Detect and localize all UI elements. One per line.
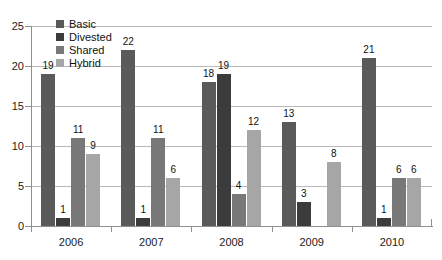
y-axis-tick-label: 20 <box>2 61 24 72</box>
y-axis-labels: 0510152025 <box>0 0 24 260</box>
bar <box>41 74 55 226</box>
bar <box>247 130 261 226</box>
x-axis-tick <box>272 226 273 232</box>
y-axis-tick <box>25 66 31 67</box>
bar-value-label: 21 <box>363 45 374 55</box>
bar <box>71 138 85 226</box>
x-axis-tick <box>111 226 112 232</box>
y-axis-tick-label: 5 <box>2 181 24 192</box>
bar <box>232 194 246 226</box>
bar-value-label: 18 <box>203 69 214 79</box>
bar <box>136 218 150 226</box>
legend-item: Shared <box>56 44 112 56</box>
bar-value-label: 6 <box>171 165 177 175</box>
legend-item: Basic <box>56 18 112 30</box>
legend-swatch-icon <box>56 59 64 67</box>
bar-value-label: 22 <box>123 37 134 47</box>
legend-item-label: Basic <box>69 19 96 30</box>
x-axis-tick-label: 2008 <box>219 236 243 248</box>
legend-item: Hybrid <box>56 57 112 69</box>
x-axis-line <box>31 226 433 227</box>
legend-swatch-icon <box>56 46 64 54</box>
chart-legend: BasicDivestedSharedHybrid <box>56 18 112 69</box>
bar-value-label: 13 <box>283 109 294 119</box>
y-axis-tick-label: 0 <box>2 221 24 232</box>
y-axis-tick-label: 25 <box>2 21 24 32</box>
y-axis-tick <box>25 26 31 27</box>
bar <box>392 178 406 226</box>
bar <box>151 138 165 226</box>
bar <box>377 218 391 226</box>
x-axis-tick-label: 2006 <box>59 236 83 248</box>
bar <box>297 202 311 226</box>
x-axis-tick-label: 2009 <box>299 236 323 248</box>
bar-value-label: 1 <box>141 205 147 215</box>
bar-value-label: 6 <box>411 165 417 175</box>
y-axis-tick <box>25 106 31 107</box>
bar-value-label: 9 <box>90 141 96 151</box>
y-axis-tick-label: 15 <box>2 101 24 112</box>
y-axis-tick-label: 10 <box>2 141 24 152</box>
bar-value-label: 8 <box>331 149 337 159</box>
legend-item-label: Shared <box>69 45 104 56</box>
y-axis-tick <box>25 226 31 227</box>
bar <box>121 50 135 226</box>
bar-value-label: 1 <box>60 205 66 215</box>
bar <box>217 74 231 226</box>
bar-value-label: 12 <box>248 117 259 127</box>
bar <box>166 178 180 226</box>
bar <box>282 122 296 226</box>
bar-value-label: 11 <box>73 125 83 135</box>
bar-value-label: 3 <box>301 189 307 199</box>
legend-item-label: Hybrid <box>69 58 101 69</box>
bar-chart: 0510152025 1911192211161819412133821166 … <box>0 0 442 260</box>
x-axis-tick <box>191 226 192 232</box>
bar-value-label: 19 <box>43 61 54 71</box>
x-axis-tick <box>31 226 32 232</box>
bar-value-label: 6 <box>396 165 402 175</box>
legend-item-label: Divested <box>69 32 112 43</box>
legend-swatch-icon <box>56 20 64 28</box>
y-axis-tick <box>25 146 31 147</box>
bar <box>362 58 376 226</box>
x-axis-tick <box>352 226 353 232</box>
bar <box>202 82 216 226</box>
bar-value-label: 4 <box>236 181 242 191</box>
x-axis-tick-label: 2007 <box>139 236 163 248</box>
bar <box>56 218 70 226</box>
y-axis-tick <box>25 186 31 187</box>
legend-swatch-icon <box>56 33 64 41</box>
x-axis-tick-label: 2010 <box>380 236 404 248</box>
legend-item: Divested <box>56 31 112 43</box>
bar <box>327 162 341 226</box>
bar <box>407 178 421 226</box>
bar-value-label: 11 <box>153 125 163 135</box>
bar <box>86 154 100 226</box>
bar-value-label: 19 <box>218 61 229 71</box>
bar-value-label: 1 <box>381 205 387 215</box>
